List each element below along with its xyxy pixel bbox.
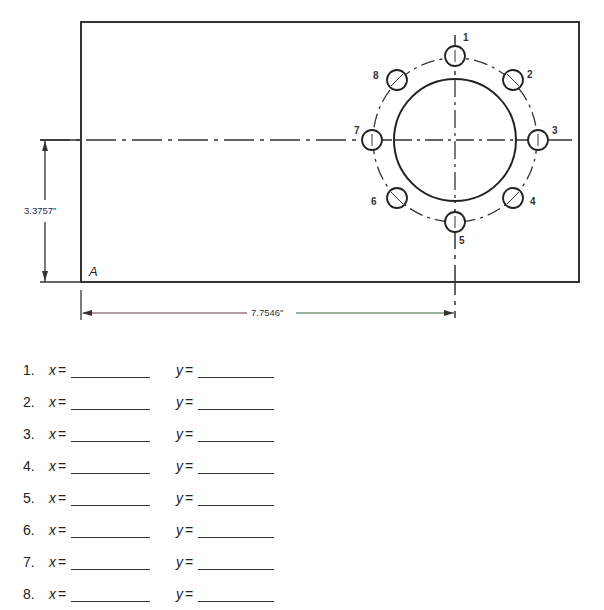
y-answer-field[interactable] — [198, 601, 274, 602]
y-answer-field[interactable] — [198, 473, 274, 474]
hole-label-3: 3 — [552, 125, 558, 136]
hole-label-4: 4 — [530, 196, 536, 207]
y-answer-field[interactable] — [198, 569, 274, 570]
hole-label-6: 6 — [371, 196, 377, 207]
x-answer-field[interactable] — [71, 441, 150, 442]
y-answer-field[interactable] — [198, 441, 274, 442]
x-answer-field[interactable] — [71, 537, 150, 538]
dim-horizontal-label: 7.7546" — [251, 307, 283, 318]
hole-label-5: 5 — [459, 235, 465, 246]
y-answer-field[interactable] — [198, 505, 274, 506]
y-answer-field[interactable] — [198, 409, 274, 410]
hole-label-1: 1 — [463, 32, 469, 43]
hole-label-2: 2 — [527, 69, 533, 80]
hole-label-8: 8 — [373, 70, 379, 81]
y-answer-field[interactable] — [198, 377, 274, 378]
x-answer-field[interactable] — [71, 569, 150, 570]
corner-label: A — [88, 264, 98, 279]
x-answer-field[interactable] — [71, 409, 150, 410]
x-answer-field[interactable] — [71, 601, 150, 602]
bolt-circle-drawing: 1 2 3 4 5 6 7 8 3.3757" 7.7546" A — [0, 0, 604, 340]
x-answer-field[interactable] — [71, 473, 150, 474]
hole-label-7: 7 — [354, 125, 360, 136]
x-answer-field[interactable] — [71, 377, 150, 378]
x-answer-field[interactable] — [71, 505, 150, 506]
dim-vertical-label: 3.3757" — [24, 205, 56, 216]
y-answer-field[interactable] — [198, 537, 274, 538]
